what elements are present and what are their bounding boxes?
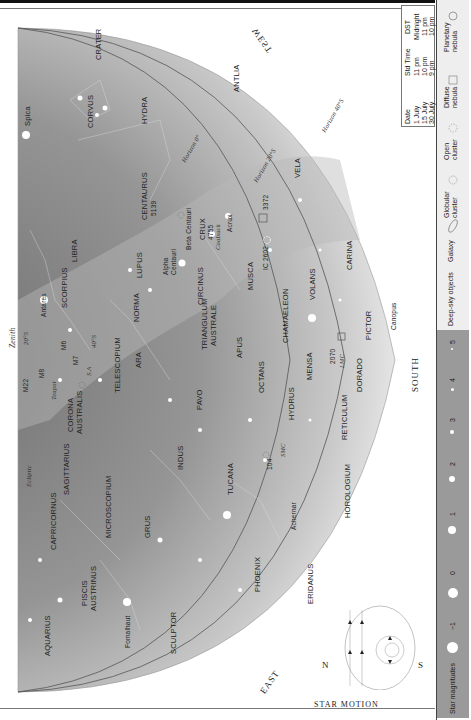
magnitude-label-3: 3 <box>449 418 456 422</box>
label-ngc3372: 3372 <box>262 195 269 210</box>
table-cell: Midnight <box>413 14 420 40</box>
label-lat-20s: 20°S <box>22 332 29 345</box>
table-cell: 1 July <box>413 106 420 124</box>
label-m8: M8 <box>38 369 45 378</box>
label-mensa: MENSA <box>305 352 314 380</box>
label-acrux: Acrux <box>226 214 233 232</box>
label-smc: SMC <box>279 443 286 457</box>
label-hydrus: HYDRUS <box>287 387 296 420</box>
label-pictor: PICTOR <box>364 311 373 340</box>
label-piscis: PISCIS <box>80 580 89 606</box>
label-phoenix: PHOENIX <box>253 557 262 592</box>
label-m6: M6 <box>60 341 67 350</box>
label-volans: VOLANS <box>308 268 317 300</box>
label-vela: VELA <box>293 158 302 178</box>
bottom-rule <box>0 708 435 709</box>
magnitude-label-2: 2 <box>449 462 456 466</box>
label-crater: CRATER <box>94 29 103 60</box>
globular-cluster-icon <box>449 176 457 184</box>
magnitude-label-0: 0 <box>449 571 456 575</box>
table-cell: 10 pm <box>428 17 435 36</box>
label-beta-centauri: Beta Centauri <box>185 208 192 250</box>
label-pavo: PAVO <box>195 389 204 410</box>
label-australis: AUSTRALIS <box>75 391 84 434</box>
label-zenith: Zenith <box>8 328 17 348</box>
label-triangulum: TRIANGULUM <box>200 298 209 350</box>
label-coalsack: Coalsack <box>214 224 221 250</box>
label-tucana: TUCANA <box>226 463 235 495</box>
magnitude-dot-4 <box>451 388 454 391</box>
label-alpha-centauri-2: Centauri <box>170 249 177 275</box>
label-musca: MUSCA <box>246 262 255 290</box>
table-cell: 30 July <box>428 102 435 124</box>
magnitude-label-1: 1 <box>449 512 456 516</box>
label-canopus: Canopus <box>390 303 397 330</box>
label-ngc4755: 4755 <box>207 225 214 240</box>
label-crux: CRUX <box>198 218 207 240</box>
deep-sky-symbols <box>437 0 469 330</box>
label-sa: S.A <box>85 367 92 376</box>
magnitude-label--1: −1 <box>449 622 456 630</box>
label-corvus: CORVUS <box>86 95 95 128</box>
magnitude-dot-5 <box>451 348 453 350</box>
label-carina: CARINA <box>345 240 354 270</box>
star-motion-inset: STAR MOTION N S <box>330 600 430 710</box>
magnitude-dot-3 <box>450 430 454 434</box>
label-alpha-centauri-1: Alpha <box>162 257 169 275</box>
planetary-nebula-icon <box>449 12 457 20</box>
table-cell: 15 July <box>421 102 428 124</box>
label-grus: GRUS <box>143 516 152 538</box>
label-telescopium: TELESCOPIUM <box>113 337 122 393</box>
label-libra: LIBRA <box>70 239 79 262</box>
star-motion-diagram <box>330 600 430 690</box>
label-m22: M22 <box>22 379 29 392</box>
label-lupus: LUPUS <box>135 252 144 278</box>
table-header-std-time: Std Time <box>404 48 411 76</box>
label-ecliptic: Ecliptic <box>25 465 32 487</box>
label-austrinus: AUSTRINUS <box>89 566 98 611</box>
label-norma: NORMA <box>132 293 141 322</box>
label-ngc104: 104 <box>266 459 273 470</box>
label-ara: ARA <box>134 352 143 368</box>
direction-south: SOUTH <box>410 357 420 392</box>
label-antlia: ANTLIA <box>232 65 241 92</box>
label-capricornus: CAPRICORNUS <box>49 492 58 550</box>
label-apus: APUS <box>235 337 244 358</box>
label-teapot: Teapot <box>50 381 57 400</box>
label-lat-40s: 40°S <box>90 335 97 348</box>
label-centaurus: CENTAURUS <box>140 172 149 220</box>
label-ngc2070: 2070 <box>329 349 336 364</box>
label-corona: CORONA <box>66 398 75 432</box>
magnitude-label-4: 4 <box>449 378 456 382</box>
deep-sky-legend: Deep-sky objects Galaxy Globular cluster… <box>437 0 469 330</box>
label-sagittarius: SAGITTARIUS <box>62 443 71 495</box>
observing-time-table: Date Std Time DST 1 July 11 pm Midnight … <box>401 5 435 127</box>
table-header-date: Date <box>404 109 411 124</box>
label-horologium: HOROLOGIUM <box>343 464 352 518</box>
label-microscopium: MICROSCOPIUM <box>104 476 113 538</box>
open-cluster-icon <box>449 124 457 132</box>
label-lmc: LMC <box>338 354 345 368</box>
table-cell: 11 pm <box>421 17 428 36</box>
table-cell: 10 pm <box>421 57 428 76</box>
magnitude-dot--1 <box>447 642 458 653</box>
table-cell: 11 pm <box>413 57 420 76</box>
label-octans: OCTANS <box>257 361 266 393</box>
label-achernar: Achernar <box>290 502 297 530</box>
label-sculptor: SCULPTOR <box>169 612 178 654</box>
label-antares: Antares <box>40 293 47 317</box>
label-aquarius: AQUARIUS <box>43 615 52 656</box>
star-motion-south: S <box>418 660 424 670</box>
diffuse-nebula-icon <box>449 76 457 84</box>
label-australe: AUSTRALE <box>209 305 218 346</box>
magnitudes-title: Star magnitudes <box>449 663 456 714</box>
label-dorado: DORADO <box>355 358 364 392</box>
label-indus: INDUS <box>176 446 185 470</box>
label-chamaeleon: CHAMAELEON <box>281 288 290 343</box>
label-scorpius: SCORPIUS <box>60 267 69 308</box>
galaxy-icon <box>447 218 459 233</box>
table-header-dst: DST <box>404 20 411 34</box>
label-eridanus: ERIDANUS <box>306 564 315 604</box>
table-cell: 9 pm <box>428 60 435 76</box>
label-reticulum: RETICULUM <box>340 394 349 440</box>
